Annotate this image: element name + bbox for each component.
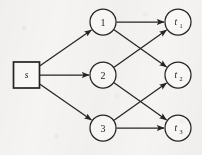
node-n2[interactable]: 2 (90, 62, 116, 88)
node-t1-circle (165, 9, 191, 35)
node-layer: s123t1t2t3 (14, 9, 192, 141)
node-t1-subscript: 1 (179, 22, 182, 29)
node-s-label: s (25, 70, 29, 80)
flow-network-figure: s123t1t2t3 (0, 0, 202, 155)
node-t2-circle (165, 62, 191, 88)
node-s[interactable]: s (14, 62, 40, 88)
node-t3-circle (165, 115, 191, 141)
node-n1-label: 1 (101, 17, 106, 28)
node-n1[interactable]: 1 (90, 9, 116, 35)
node-n3[interactable]: 3 (90, 115, 116, 141)
edge-s-to-n3 (40, 84, 91, 120)
node-t2-label: t (174, 70, 177, 80)
node-t1-label: t (174, 17, 177, 27)
node-t2[interactable]: t2 (165, 62, 191, 88)
edge-s-to-n1 (40, 30, 91, 66)
node-n3-label: 3 (101, 123, 106, 134)
node-t1[interactable]: t1 (165, 9, 191, 35)
graph-canvas: s123t1t2t3 (0, 0, 202, 155)
node-t3-label: t (174, 123, 177, 133)
node-n2-label: 2 (101, 70, 106, 81)
node-t3-subscript: 3 (179, 128, 182, 135)
node-t3[interactable]: t3 (165, 115, 191, 141)
node-t2-subscript: 2 (179, 75, 182, 82)
